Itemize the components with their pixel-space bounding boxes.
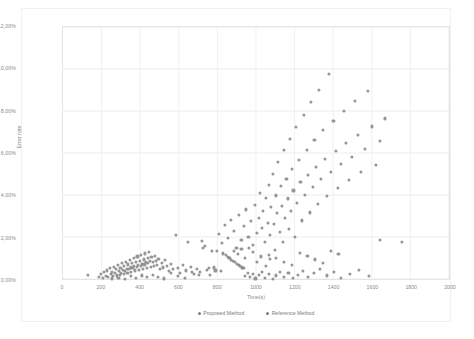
scatter-point [330,170,333,173]
scatter-point [174,234,177,237]
y-tick-label: 10,00% [0,65,16,71]
scatter-point [279,271,282,274]
scatter-point [141,267,144,270]
scatter-point [244,274,247,277]
scatter-point [129,275,132,278]
legend-item[interactable]: Proposed Method [198,310,244,316]
scatter-point [263,276,266,279]
scatter-point [337,252,340,255]
scatter-point [135,276,138,279]
scatter-point [138,268,141,271]
scatter-point [144,252,147,255]
scatter-point [249,219,252,222]
chart-legend: Proposed MethodReference Method [62,306,450,320]
scatter-point [160,261,163,264]
scatter-point [215,249,218,252]
x-tick-label: 200 [81,284,121,290]
scatter-point [257,274,260,277]
scatter-point [269,257,272,260]
scatter-point [130,270,133,273]
scatter-point [300,219,303,222]
x-tick-label: 1200 [275,284,315,290]
scatter-point [126,271,129,274]
scatter-point [263,240,266,243]
scatter-point [299,181,302,184]
scatter-point [251,272,254,275]
x-tick-label: 0 [42,284,82,290]
scatter-point [162,266,165,269]
scatter-point [210,249,213,252]
scatter-point [401,240,404,243]
scatter-point [240,239,243,242]
x-tick-label: 400 [120,284,160,290]
scatter-point [221,242,224,245]
scatter-point [217,232,220,235]
scatter-point [314,165,317,168]
scatter-point [329,249,332,252]
scatter-point [245,208,248,211]
scatter-point [140,253,143,256]
x-tick-label: 2000 [430,284,470,290]
scatter-point [146,276,149,279]
scatter-point [283,276,286,279]
scatter-point [314,258,317,261]
scatter-point [242,224,245,227]
scatter-point [275,257,278,260]
scatter-point [281,240,284,243]
legend-marker-icon [266,312,269,315]
scatter-point [319,178,322,181]
scatter-point [122,272,125,275]
scatter-point [357,133,360,136]
legend-item[interactable]: Reference Method [266,310,314,316]
scatter-point [134,269,137,272]
x-tick-label: 1800 [391,284,431,290]
scatter-point [298,251,301,254]
x-tick-label: 1600 [352,284,392,290]
scatter-point [307,275,310,278]
x-tick-label: 600 [158,284,198,290]
scatter-point [327,72,330,75]
legend-label: Reference Method [272,310,315,316]
scatter-point [278,230,281,233]
scatter-point [290,263,293,266]
scatter-point [224,223,227,226]
scatter-point [274,194,277,197]
scatter-point [277,160,280,163]
scatter-point [345,141,348,144]
scatter-point [305,148,308,151]
scatter-point [157,257,160,260]
scatter-point [332,270,335,273]
scatter-point [132,257,135,260]
scatter-point [269,234,272,237]
scatter-point [378,238,381,241]
scatter-point [251,243,254,246]
scatter-point [187,241,190,244]
scatter-point [351,155,354,158]
scatter-point [181,264,184,267]
scatter-point [266,221,269,224]
scatter-point [265,196,268,199]
scatter-point [145,266,148,269]
scatter-point [316,202,319,205]
x-tick-label: 800 [197,284,237,290]
scatter-point [117,276,120,279]
scatter-point [296,201,299,204]
scatter-point [293,235,296,238]
scatter-point [310,100,313,103]
scatter-point [247,235,250,238]
scatter-point [179,271,182,274]
scatter-point [291,168,294,171]
scatter-point [229,218,232,221]
y-tick-label: 4,00% [0,192,16,198]
scatter-point [383,117,386,120]
scatter-point [232,249,235,252]
y-tick-label: 0,00% [0,277,16,283]
scatter-point [292,189,295,192]
scatter-point [262,210,265,213]
x-axis-title: Time(s) [62,294,450,300]
scatter-point [312,271,315,274]
scatter-point [371,125,374,128]
scatter-point [339,163,342,166]
scatter-point [264,264,267,267]
scatter-point [136,255,139,258]
